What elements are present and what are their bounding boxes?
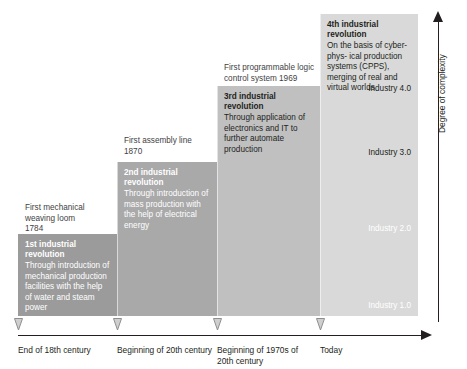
x-axis-line xyxy=(18,335,423,336)
step-text-industry-2: 2nd industrial revolution Through introd… xyxy=(124,168,210,231)
x-axis-arrow xyxy=(421,330,432,340)
industry-label-2: Industry 2.0 xyxy=(320,224,411,234)
y-axis-label: Degree of complexity xyxy=(437,54,447,133)
step-block-industry-1: 1st industrial revolution Through introd… xyxy=(18,234,117,316)
x-tick-marker-1 xyxy=(14,318,23,331)
industry-label-4: Industry 4.0 xyxy=(368,84,411,94)
step-body-industry-2: Through introduction of mass production … xyxy=(124,189,210,231)
x-axis-label-3: Beginning of 1970s of 20th century xyxy=(217,345,298,366)
x-axis-label-1: End of 18th century xyxy=(18,345,91,356)
column-separator-2 xyxy=(217,86,218,316)
column-separator-1 xyxy=(117,162,118,316)
caption-industry-1: First mechanical weaving loom 1784 xyxy=(25,203,85,235)
industry-label-3: Industry 3.0 xyxy=(320,148,411,158)
step-body-industry-3: Through application of electronics and I… xyxy=(224,113,313,155)
step-title-industry-4: 4th industrial revolution xyxy=(327,20,411,41)
step-block-industry-4: 4th industrial revolution On the basis o… xyxy=(320,14,418,316)
step-block-industry-2: 2nd industrial revolution Through introd… xyxy=(117,162,217,316)
x-tick-marker-2 xyxy=(113,318,122,331)
step-text-industry-4: 4th industrial revolution On the basis o… xyxy=(327,20,411,93)
step-block-industry-3: 3rd industrial revolution Through applic… xyxy=(217,86,320,316)
caption-industry-3: First programmable logic control system … xyxy=(224,63,314,84)
x-tick-marker-3 xyxy=(213,318,222,331)
industry-label-1: Industry 1.0 xyxy=(320,301,411,311)
y-axis-arrow xyxy=(433,11,443,22)
step-title-industry-1: 1st industrial revolution xyxy=(25,240,110,261)
step-text-industry-1: 1st industrial revolution Through introd… xyxy=(25,240,110,313)
step-body-industry-1: Through introduction of mechanical produ… xyxy=(25,261,110,313)
step-title-industry-3: 3rd industrial revolution xyxy=(224,92,313,113)
x-tick-marker-4 xyxy=(316,318,325,331)
column-separator-3 xyxy=(320,14,321,316)
step-text-industry-3: 3rd industrial revolution Through applic… xyxy=(224,92,313,155)
x-axis-label-4: Today xyxy=(320,345,342,356)
caption-industry-2: First assembly line 1870 xyxy=(124,136,192,157)
step-title-industry-2: 2nd industrial revolution xyxy=(124,168,210,189)
industry-evolution-diagram: 4th industrial revolution On the basis o… xyxy=(0,0,467,369)
x-axis-label-2: Beginning of 20th century xyxy=(117,345,212,356)
